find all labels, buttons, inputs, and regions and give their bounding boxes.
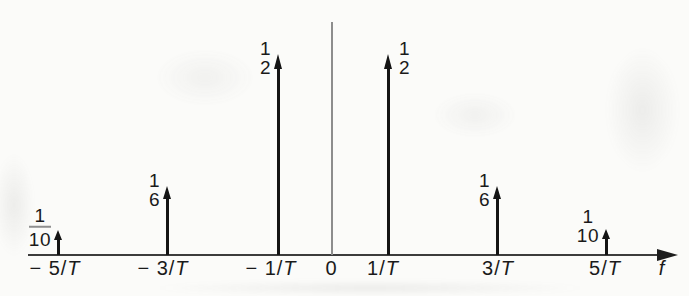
tick-label-period-symbol: T bbox=[501, 257, 514, 279]
fraction-numerator: 1 bbox=[260, 39, 271, 58]
amplitude-label: 12 bbox=[260, 39, 271, 77]
impulse-shaft bbox=[57, 238, 60, 255]
fraction-denominator: 10 bbox=[577, 226, 599, 245]
impulse-shaft bbox=[387, 67, 390, 255]
x-tick-label: 5/T bbox=[589, 257, 621, 280]
origin-tick-label: 0 bbox=[325, 257, 336, 280]
fraction-denominator: 6 bbox=[149, 190, 160, 209]
fraction-denominator: 10 bbox=[29, 229, 51, 248]
tick-label-number: − 5/ bbox=[29, 257, 67, 279]
fraction-numerator: 1 bbox=[29, 206, 51, 225]
fraction-denominator: 2 bbox=[399, 58, 410, 77]
amplitude-label: 110 bbox=[29, 206, 51, 249]
amplitude-label: 16 bbox=[149, 171, 160, 209]
amplitude-label: 16 bbox=[479, 171, 490, 209]
x-axis-arrowhead-icon bbox=[657, 249, 678, 261]
tick-label-period-symbol: T bbox=[608, 257, 621, 279]
tick-label-period-symbol: T bbox=[175, 257, 188, 279]
fraction-numerator: 1 bbox=[479, 171, 490, 190]
x-tick-label: − 3/T bbox=[137, 257, 188, 280]
x-tick-label: 1/T bbox=[367, 257, 399, 280]
fraction-denominator: 2 bbox=[260, 58, 271, 77]
amplitude-label: 12 bbox=[399, 39, 410, 77]
fraction-bar bbox=[29, 226, 51, 228]
tick-label-number: − 3/ bbox=[137, 257, 175, 279]
fraction-numerator: 1 bbox=[399, 39, 410, 58]
fraction-numerator: 1 bbox=[149, 171, 160, 190]
impulse-shaft bbox=[605, 237, 608, 255]
y-axis-line bbox=[331, 22, 333, 255]
tick-label-number: 1/ bbox=[367, 257, 386, 279]
x-tick-label: − 5/T bbox=[29, 257, 80, 280]
x-tick-label: 3/T bbox=[482, 257, 514, 280]
scan-artifact bbox=[140, 40, 270, 115]
amplitude-label: 110 bbox=[577, 207, 599, 245]
x-axis-line bbox=[28, 254, 660, 256]
fraction-denominator: 6 bbox=[479, 190, 490, 209]
tick-label-number: − 1/ bbox=[245, 257, 283, 279]
tick-label-period-symbol: T bbox=[67, 257, 80, 279]
tick-label-period-symbol: T bbox=[283, 257, 296, 279]
impulse-shaft bbox=[166, 197, 169, 255]
impulse-shaft bbox=[277, 67, 280, 255]
tick-label-number: 3/ bbox=[482, 257, 501, 279]
x-tick-label: − 1/T bbox=[245, 257, 296, 280]
fraction-numerator: 1 bbox=[577, 207, 599, 226]
tick-label-number: 5/ bbox=[589, 257, 608, 279]
scan-artifact bbox=[595, 30, 689, 190]
scan-artifact bbox=[90, 278, 650, 296]
scan-artifact bbox=[420, 85, 530, 145]
tick-label-period-symbol: T bbox=[386, 257, 399, 279]
impulse-shaft bbox=[496, 197, 499, 255]
figure-canvas: 0 f 110− 5/T16− 3/T12− 1/T121/T163/T1105… bbox=[0, 0, 689, 296]
